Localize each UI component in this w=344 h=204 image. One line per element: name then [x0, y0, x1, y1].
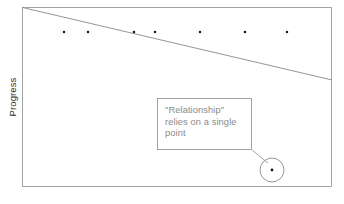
annotation-line-3: point — [165, 128, 186, 138]
annotation-callout: "Relationship" relies on a single point — [158, 99, 252, 150]
data-point — [63, 31, 66, 34]
data-point — [154, 31, 157, 34]
figure-container: Progress "Relationship" relies on a sing… — [0, 0, 344, 204]
data-point — [199, 31, 202, 34]
annotation-line-2: relies on a single — [165, 117, 237, 127]
data-point — [87, 31, 90, 34]
annotation-leader-line — [252, 150, 268, 163]
axes-frame — [23, 8, 332, 187]
scatter-plot-figure: Progress "Relationship" relies on a sing… — [0, 0, 344, 204]
annotation-line-1: "Relationship" — [165, 105, 224, 115]
outlier-group — [260, 158, 284, 182]
data-point — [133, 31, 136, 34]
outlier-data-point — [271, 169, 274, 172]
y-axis-label-text: Progress — [7, 77, 18, 116]
data-point — [244, 31, 247, 34]
trend-line — [23, 8, 333, 81]
data-point — [286, 31, 289, 34]
y-axis-label: Progress — [7, 77, 18, 116]
data-point-group — [63, 31, 289, 34]
